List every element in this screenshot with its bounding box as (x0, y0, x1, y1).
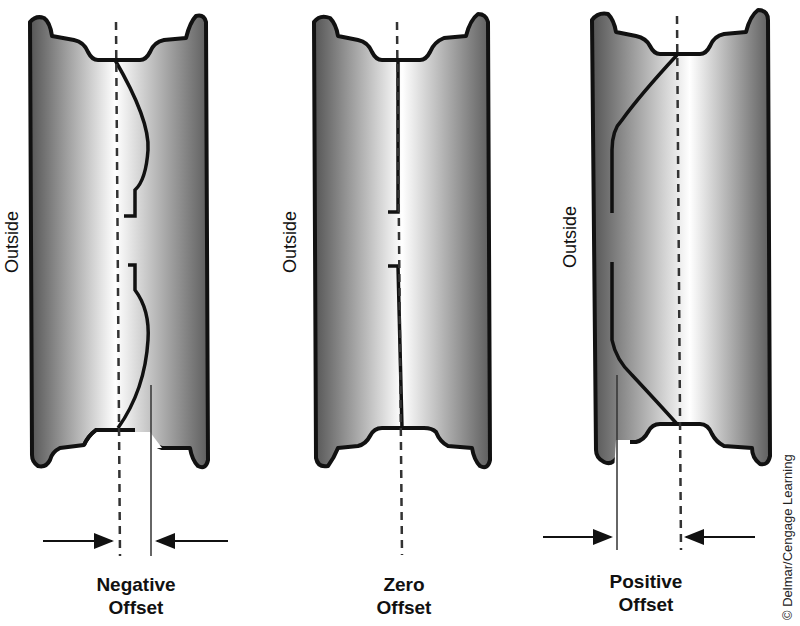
wheel-positive-offset (543, 10, 770, 550)
caption-line2: Offset (576, 593, 716, 616)
wheel-negative-offset (30, 16, 228, 556)
caption-line2: Offset (334, 596, 474, 619)
outside-label-positive: Outside (560, 206, 581, 268)
caption-line2: Offset (66, 596, 206, 619)
caption-line1: Zero (334, 573, 474, 596)
wheel-offset-diagram (0, 0, 800, 626)
rim-body (30, 16, 208, 468)
caption-line1: Positive (576, 570, 716, 593)
outside-label-zero: Outside (280, 211, 301, 273)
caption-negative-offset: Negative Offset (66, 573, 206, 619)
wheel-zero-offset (314, 14, 490, 555)
caption-line1: Negative (66, 573, 206, 596)
copyright-credit: © Delmar/Cengage Learning (780, 454, 795, 620)
caption-zero-offset: Zero Offset (334, 573, 474, 619)
outside-label-negative: Outside (2, 211, 23, 273)
caption-positive-offset: Positive Offset (576, 570, 716, 616)
